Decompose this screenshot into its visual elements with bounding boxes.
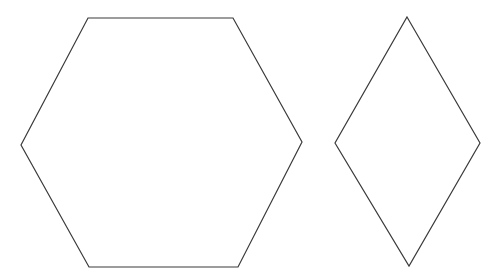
hexagon-shape (21, 18, 302, 267)
rhombus-shape (335, 17, 480, 266)
diagram-canvas (0, 0, 503, 279)
